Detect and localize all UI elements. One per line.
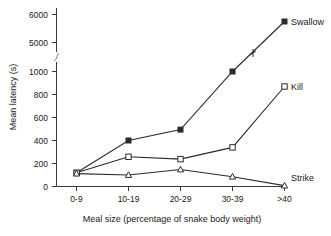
x-axis-title: Meal size (percentage of snake body weig… [83,214,262,224]
kill-marker-4 [282,84,287,89]
y-tick-label-1000: 1000 [29,67,48,77]
kill-marker-2 [178,156,183,161]
swallow-marker-1 [126,138,131,143]
series-label-kill: Kill [291,82,303,92]
y-tick-label-6000: 6000 [29,10,48,20]
y-axis-title: Mean latency (s) [8,64,18,131]
swallow-marker-3 [230,69,235,74]
x-tick-label-0-9: 0-9 [70,194,83,204]
y-tick-label-200: 200 [34,159,48,169]
y-tick-label-400: 400 [34,136,48,146]
swallow-marker-2 [178,127,183,132]
y-tick-label-600: 600 [34,113,48,123]
kill-marker-3 [230,145,235,150]
kill-marker-1 [126,154,131,159]
y-tick-label-0: 0 [43,182,48,192]
chart-figure: 6000 5000 1000 800 600 400 200 0 Mean la… [0,0,331,236]
y-tick-label-800: 800 [34,90,48,100]
series-label-swallow: Swallow [291,17,325,27]
x-tick-label-over-40: >40 [277,194,292,204]
x-tick-label-20-29: 20-29 [170,194,192,204]
x-tick-label-10-19: 10-19 [118,194,140,204]
y-tick-label-5000: 5000 [29,38,48,48]
swallow-marker-4 [282,19,287,24]
series-label-strike: Strike [291,173,314,183]
latency-line-chart: 6000 5000 1000 800 600 400 200 0 Mean la… [0,0,331,236]
x-tick-label-30-39: 30-39 [222,194,244,204]
